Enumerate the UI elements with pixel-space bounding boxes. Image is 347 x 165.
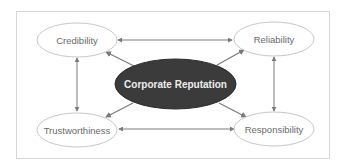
node-trustworthiness-label: Trustworthiness — [44, 125, 111, 136]
center-label: Corporate Reputation — [124, 79, 227, 90]
node-reliability: Reliability — [234, 22, 314, 56]
node-trustworthiness: Trustworthiness — [37, 113, 117, 147]
node-responsibility: Responsibility — [234, 112, 314, 146]
node-reliability-label: Reliability — [254, 34, 295, 45]
node-credibility: Credibility — [37, 23, 117, 57]
corporate-reputation-diagram: Credibility Reliability Trustworthiness … — [0, 0, 347, 165]
node-credibility-label: Credibility — [56, 35, 98, 46]
node-responsibility-label: Responsibility — [245, 124, 304, 135]
node-corporate-reputation: Corporate Reputation — [115, 59, 236, 109]
